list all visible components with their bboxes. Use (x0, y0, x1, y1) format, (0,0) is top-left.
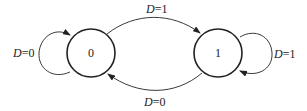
transition-0-to-0-arrow (39, 32, 70, 75)
transition-label-0-to-0: D=0 (13, 47, 34, 59)
transition-label-0-to-1: D=1 (146, 3, 167, 15)
transition-label-1-to-0: D=0 (144, 96, 165, 108)
state-0-label: 0 (88, 47, 94, 59)
transition-label-1-to-1: D=1 (274, 48, 295, 60)
transition-1-to-1-arrow (240, 33, 272, 73)
state-1-label: 1 (215, 47, 221, 59)
transition-0-to-1-arrow (107, 17, 200, 34)
state-diagram: 0 1 D=0 D=1 D=1 D=0 (0, 0, 307, 111)
transition-1-to-0-arrow (108, 73, 202, 90)
